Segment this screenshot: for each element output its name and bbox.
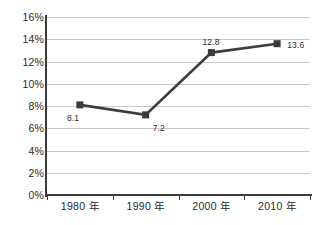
x-axis-tick-label: 1980 年	[61, 198, 99, 213]
y-axis-line	[45, 15, 47, 197]
plot-area	[47, 17, 310, 195]
y-axis-labels: 16%14%12%10%8%6%4%2%0%	[0, 0, 44, 225]
gridline	[47, 17, 310, 18]
x-axis-labels: 1980 年1990 年2000 年2010 年	[47, 198, 310, 218]
y-axis-tick-label: 14%	[2, 33, 44, 45]
y-axis-tick-label: 8%	[2, 100, 44, 112]
y-axis-tick-label: 4%	[2, 145, 44, 157]
data-point-value-label: 8.1	[67, 113, 79, 123]
y-axis-tick-label: 2%	[2, 167, 44, 179]
y-axis-tick-label: 6%	[2, 122, 44, 134]
data-point-value-label: 7.2	[153, 123, 165, 133]
gridline	[47, 106, 310, 107]
gridline	[47, 151, 310, 152]
y-axis-tick-label: 12%	[2, 56, 44, 68]
gridline	[47, 128, 310, 129]
data-point-value-label: 12.8	[202, 37, 219, 47]
x-axis-tickmark	[310, 195, 311, 200]
x-axis-tick-label: 2010 年	[258, 198, 296, 213]
x-axis-tick-label: 2000 年	[192, 198, 230, 213]
data-point-value-label: 13.6	[287, 40, 304, 50]
gridline	[47, 62, 310, 63]
gridline	[47, 173, 310, 174]
line-chart: 16%14%12%10%8%6%4%2%0% 1980 年1990 年2000 …	[0, 0, 326, 225]
y-axis-tick-label: 0%	[2, 189, 44, 201]
gridline	[47, 84, 310, 85]
gridline	[47, 39, 310, 40]
y-axis-tick-label: 16%	[2, 11, 44, 23]
y-axis-tick-label: 10%	[2, 78, 44, 90]
x-axis-tick-label: 1990 年	[127, 198, 165, 213]
